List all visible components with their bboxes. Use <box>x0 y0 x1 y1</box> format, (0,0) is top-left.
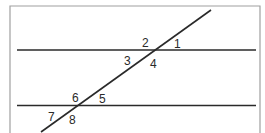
angle-label-3: 3 <box>124 55 131 67</box>
angle-label-8: 8 <box>69 114 76 126</box>
diagram-canvas <box>0 0 265 133</box>
angle-label-2: 2 <box>142 37 149 49</box>
angle-label-4: 4 <box>150 58 157 70</box>
angle-label-6: 6 <box>72 92 79 104</box>
angle-label-5: 5 <box>99 93 106 105</box>
angle-label-1: 1 <box>174 38 181 50</box>
transversal-line <box>41 10 211 132</box>
angle-label-7: 7 <box>48 111 55 123</box>
